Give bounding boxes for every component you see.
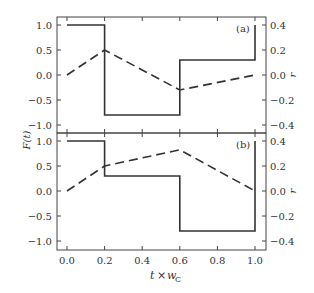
y-axis-label-right-a: r xyxy=(287,71,298,77)
x-axis-label-sub: C xyxy=(175,275,181,284)
x-axis-label-t: t xyxy=(150,269,155,282)
y-tick-label-left: −0.5 xyxy=(28,95,52,106)
y-tick-label-right: −0.4 xyxy=(270,236,294,247)
y-tick-label-right: 0.4 xyxy=(270,20,286,31)
y-tick-label-right: 0.0 xyxy=(270,186,286,197)
x-axis-label-times: × xyxy=(157,269,166,282)
y-tick-label-right: 0.2 xyxy=(270,161,286,172)
figure: 1.00.50.0−0.5−1.00.40.20.0−0.2−0.4 (a) 1… xyxy=(0,0,314,293)
y-tick-label-left: −1.0 xyxy=(28,236,52,247)
y-tick-label-right: −0.2 xyxy=(270,95,294,106)
panel-b: 1.00.50.0−0.5−1.00.40.20.0−0.2−0.4 (b) xyxy=(28,133,295,250)
y-tick-label-left: 0.0 xyxy=(36,70,52,81)
y-tick-label-right: 0.4 xyxy=(270,136,286,147)
panel-b-series xyxy=(67,141,255,231)
series-r-dashed-line xyxy=(67,50,255,90)
x-tick-label: 0.8 xyxy=(209,255,225,266)
x-tick-labels: 0.00.20.40.60.81.0 xyxy=(59,255,263,266)
y-tick-label-left: −0.5 xyxy=(28,211,52,222)
x-tick-label: 0.4 xyxy=(134,255,150,266)
y-tick-label-left: 1.0 xyxy=(36,20,52,31)
y-tick-label-left: 0.5 xyxy=(36,45,52,56)
panel-a-label: (a) xyxy=(236,23,250,34)
x-tick-label: 0.0 xyxy=(59,255,75,266)
y-axis-label-right-b: r xyxy=(287,187,298,193)
y-tick-label-right: −0.4 xyxy=(270,120,294,131)
series-F-line xyxy=(67,25,255,115)
panel-b-label: (b) xyxy=(236,139,250,150)
y-tick-label-left: 1.0 xyxy=(36,136,52,147)
y-axis-label-left: F(t) xyxy=(21,131,32,151)
x-tick-label: 1.0 xyxy=(247,255,263,266)
y-tick-label-right: 0.2 xyxy=(270,45,286,56)
series-r-dashed-line xyxy=(67,150,255,191)
panel-a-series xyxy=(67,25,255,115)
y-tick-label-left: 0.0 xyxy=(36,186,52,197)
y-tick-label-right: 0.0 xyxy=(270,70,286,81)
panel-a: 1.00.50.0−0.5−1.00.40.20.0−0.2−0.4 (a) xyxy=(28,17,295,133)
y-tick-label-right: −0.2 xyxy=(270,211,294,222)
x-axis-label: t × w C xyxy=(150,269,181,284)
x-tick-label: 0.2 xyxy=(97,255,113,266)
panel-b-frame xyxy=(57,133,266,250)
y-tick-label-left: −1.0 xyxy=(28,120,52,131)
y-tick-label-left: 0.5 xyxy=(36,161,52,172)
x-tick-label: 0.6 xyxy=(172,255,188,266)
